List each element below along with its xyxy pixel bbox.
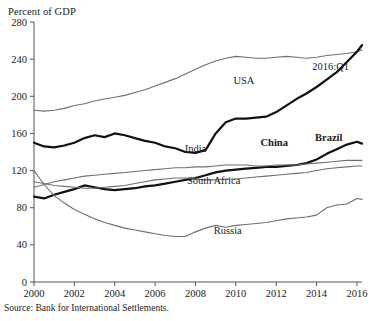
series-label-south-africa: South Africa [187, 175, 241, 186]
y-tick-label: 80 [17, 202, 28, 213]
chart-container: Percent of GDP 0408012016020024028020002… [0, 0, 390, 321]
y-tick-label: 280 [11, 17, 27, 28]
annotation-2016-q1: 2016:Q1 [312, 61, 349, 72]
series-label-brazil: Brazil [315, 132, 342, 143]
x-tick-label: 2010 [225, 288, 246, 299]
y-tick-label: 0 [22, 277, 27, 288]
x-tick-label: 2006 [145, 288, 166, 299]
y-tick-label: 160 [11, 128, 27, 139]
y-tick-label: 240 [11, 54, 27, 65]
series-label-russia: Russia [214, 225, 242, 236]
x-tick-label: 2012 [266, 288, 287, 299]
y-tick-label: 40 [17, 239, 28, 250]
x-tick-label: 2008 [185, 288, 206, 299]
x-tick-label: 2002 [64, 288, 85, 299]
chart-plot-area: 0408012016020024028020002002200420062008… [0, 0, 390, 321]
series-label-india: India [185, 143, 207, 154]
x-tick-label: 2014 [306, 288, 328, 299]
x-tick-label: 2016 [346, 288, 367, 299]
y-tick-label: 200 [11, 91, 27, 102]
series-label-usa: USA [233, 75, 254, 86]
y-tick-label: 120 [11, 165, 27, 176]
series-label-china: China [260, 137, 288, 148]
source-note: Source: Bank for International Settlemen… [4, 303, 169, 313]
x-tick-label: 2004 [104, 288, 126, 299]
series-line-usa [34, 50, 362, 111]
x-tick-label: 2000 [24, 288, 45, 299]
